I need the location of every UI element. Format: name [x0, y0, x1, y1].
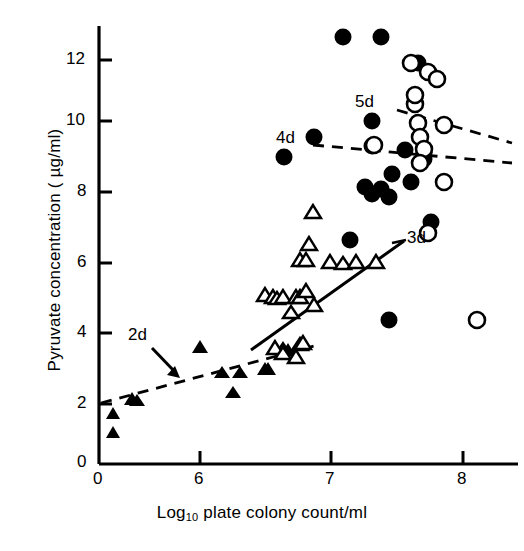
series-annotation-2d: 2d: [128, 325, 147, 345]
series-3d-points: [257, 205, 384, 363]
y-tick-label-4: 4: [77, 322, 86, 342]
annotation-arrow-2d: [152, 348, 180, 378]
x-axis-ticks: [200, 451, 463, 464]
x-axis-title-base: Log: [157, 503, 186, 522]
series-annotation-4d: 4d: [276, 128, 295, 148]
chart-figure: 0 2 4 6 8 10 12 0 6 7 8 2d 3d 4d 5d Pyru…: [0, 0, 524, 551]
series-annotation-5d: 5d: [355, 92, 374, 112]
y-tick-label-6: 6: [77, 252, 86, 272]
series-annotation-3d: 3d: [407, 228, 426, 248]
y-tick-label-10: 10: [66, 110, 85, 130]
y-axis-ticks: [99, 60, 112, 404]
y-tick-label-8: 8: [77, 181, 86, 201]
x-axis-title-rest: plate colony count/ml: [198, 503, 367, 522]
y-tick-label-2: 2: [77, 393, 86, 413]
x-tick-label-0: 0: [93, 469, 102, 489]
y-tick-label-0: 0: [77, 452, 86, 472]
x-tick-label-7: 7: [325, 469, 334, 489]
y-axis-title: Pyruvate concentration ( µg/ml): [45, 40, 65, 460]
x-axis-title: Log10 plate colony count/ml: [0, 503, 524, 523]
y-tick-label-12: 12: [66, 49, 85, 69]
series-4d-points: [276, 29, 440, 329]
x-tick-label-8: 8: [457, 469, 466, 489]
x-axis-title-subscript: 10: [186, 511, 199, 523]
x-tick-label-6: 6: [194, 469, 203, 489]
